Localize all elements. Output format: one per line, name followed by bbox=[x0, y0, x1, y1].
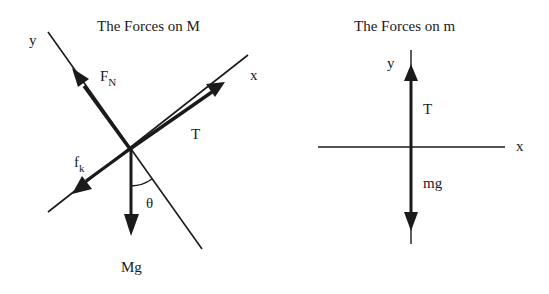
fk-vector-shaft bbox=[86, 149, 130, 181]
t-label-left: T bbox=[191, 127, 200, 142]
mg-label-right: mg bbox=[423, 176, 442, 191]
mg-arrowhead-right-icon bbox=[404, 212, 418, 231]
right-diagram-title: The Forces on m bbox=[354, 19, 455, 34]
theta-label: θ bbox=[146, 196, 153, 211]
t-label-right: T bbox=[423, 102, 432, 117]
left-y-axis-label: y bbox=[29, 33, 37, 48]
fk-label: fk bbox=[74, 155, 85, 170]
left-diagram-lines bbox=[48, 32, 248, 249]
mg-label-left: Mg bbox=[121, 260, 142, 275]
fn-vector-shaft bbox=[84, 86, 130, 149]
t-arrowhead-right-icon bbox=[404, 64, 418, 81]
mg-arrowhead-icon bbox=[124, 214, 139, 236]
theta-arc bbox=[131, 179, 152, 186]
right-x-axis-label: x bbox=[516, 139, 524, 154]
left-x-axis-label: x bbox=[250, 68, 258, 83]
fn-label: FN bbox=[100, 69, 116, 84]
left-diagram-title: The Forces on M bbox=[97, 19, 200, 34]
free-body-diagrams bbox=[0, 0, 549, 294]
fn-arrowhead-icon bbox=[72, 68, 89, 87]
right-y-axis-label: y bbox=[387, 56, 395, 71]
fn-label-subscript: N bbox=[108, 76, 116, 88]
fk-label-subscript: k bbox=[79, 162, 85, 174]
